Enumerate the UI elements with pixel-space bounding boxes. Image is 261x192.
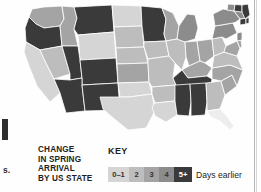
legend-swatch-5: 5+ (174, 167, 192, 182)
state-WY (78, 32, 116, 60)
state-MS (175, 84, 191, 116)
state-FL (207, 109, 234, 130)
legend-swatch-3: 3 (144, 167, 159, 182)
legend-swatch-4: 4 (159, 167, 174, 182)
us-choropleth-map (14, 4, 250, 132)
map-svg (14, 4, 250, 132)
state-RI (246, 18, 249, 25)
legend-unit-label: Days earlier (196, 170, 242, 180)
legend-swatch-2: 2 (129, 167, 144, 182)
state-AR (152, 85, 176, 103)
state-KS (117, 63, 149, 83)
caption-line-1: CHANGE (38, 145, 92, 155)
state-MT (74, 5, 114, 35)
legend-scale: 0–12345+ (108, 167, 192, 182)
caption-line-3: ARRIVAL (38, 164, 92, 174)
page-edge-text-fragment: s. (3, 165, 10, 175)
state-MN (141, 6, 166, 42)
state-AZ (54, 78, 85, 113)
page-edge-rule-secondary (256, 0, 257, 192)
state-NJ (237, 32, 242, 41)
figure-caption: CHANGE IN SPRING ARRIVAL BY US STATE (38, 145, 92, 183)
state-NE (116, 47, 148, 64)
state-OH (197, 39, 214, 63)
state-TX (100, 94, 155, 130)
legend-swatch-0-1: 0–1 (108, 167, 129, 182)
state-MO (148, 56, 176, 87)
caption-line-4: BY US STATE (38, 174, 92, 184)
state-LA (152, 101, 177, 122)
map-states (24, 4, 250, 130)
state-CO (80, 58, 118, 85)
state-NH (234, 5, 242, 13)
state-ND (112, 5, 142, 27)
legend-title: KEY (108, 146, 128, 156)
state-SD (114, 26, 144, 48)
figure-page: CHANGE IN SPRING ARRIVAL BY US STATE KEY… (0, 0, 261, 192)
state-AL (190, 83, 207, 116)
state-MI (177, 14, 198, 42)
page-edge-rule (254, 0, 255, 192)
caption-line-2: IN SPRING (38, 155, 92, 165)
page-edge-bar (2, 119, 8, 140)
